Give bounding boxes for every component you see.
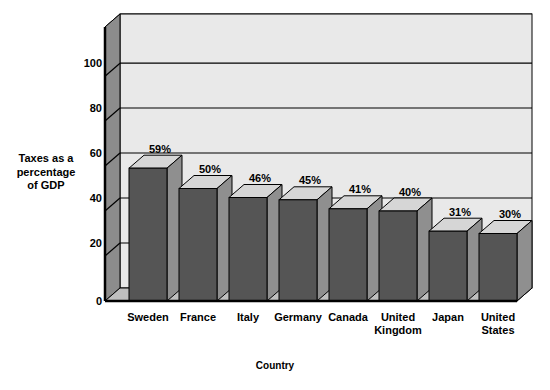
data-label-italy: 46% (232, 172, 288, 184)
data-label-france: 50% (182, 163, 238, 175)
chart-screenshot: 100 80 60 40 20 0 Taxes as a percentage … (0, 0, 550, 390)
x-axis-title: Country (0, 360, 550, 371)
data-label-united-kingdom: 40% (382, 186, 438, 198)
x-label-united-states: United States (469, 311, 527, 337)
x-label-line-1: United (469, 311, 527, 324)
x-axis-labels: Sweden France Italy Germany Canada Unite… (0, 311, 550, 351)
data-label-canada: 41% (332, 183, 388, 195)
data-label-germany: 45% (282, 174, 338, 186)
data-label-united-states: 30% (482, 208, 538, 220)
x-label-line-2: States (469, 324, 527, 337)
data-label-sweden: 59% (132, 143, 188, 155)
x-label-line-2: Kingdom (369, 324, 427, 337)
data-label-japan: 31% (432, 206, 488, 218)
